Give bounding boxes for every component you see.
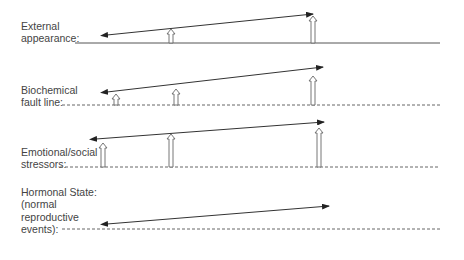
double-headed-arrow [107,206,329,224]
hollow-up-arrow-icon [309,16,317,43]
hollow-up-arrow-icon [309,76,317,105]
diagram-layer [60,14,440,229]
double-headed-arrow [96,122,324,139]
hollow-up-arrow-icon [99,143,107,167]
hollow-up-arrow-icon [167,134,175,167]
hollow-up-arrow-icon [167,29,175,43]
hollow-up-arrow-icon [172,89,180,105]
diagram-canvas [0,0,464,260]
double-headed-arrow [107,67,323,92]
double-headed-arrow [107,14,313,35]
hollow-up-arrow-icon [112,94,120,105]
hollow-up-arrow-icon [315,128,323,167]
